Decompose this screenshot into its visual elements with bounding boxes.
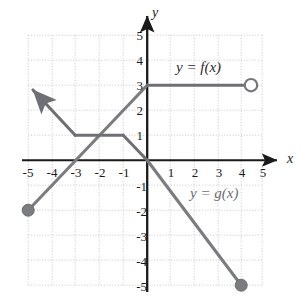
y-tick-3: 3 (137, 79, 144, 92)
x-tick--2: -2 (95, 166, 106, 179)
x-tick--1: -1 (119, 166, 130, 179)
x-tick--4: -4 (47, 166, 58, 179)
graph-figure: x y -5 -4 -3 -2 -1 1 2 3 4 5 5 4 3 2 1 -… (0, 0, 305, 297)
y-tick--1: -1 (136, 180, 147, 193)
y-tick--3: -3 (136, 230, 147, 243)
y-tick--4: -4 (136, 255, 147, 268)
y-tick-1: 1 (137, 129, 144, 142)
open-circle-marker (245, 79, 257, 91)
x-tick--5: -5 (23, 166, 34, 179)
filled-dot-marker-left (22, 204, 34, 216)
y-tick--2: -2 (136, 205, 147, 218)
filled-dot-marker-right (235, 279, 247, 291)
x-tick-3: 3 (216, 166, 223, 179)
x-tick-1: 1 (168, 166, 175, 179)
x-tick--3: -3 (71, 166, 82, 179)
x-tick-5: 5 (260, 166, 267, 179)
f-function-label: y = f(x) (176, 60, 221, 75)
x-tick-2: 2 (192, 166, 199, 179)
curve-f (33, 85, 245, 160)
x-axis-name: x (287, 152, 293, 166)
graph-canvas (0, 0, 305, 297)
y-axis-name: y (152, 6, 158, 20)
g-function-label: y = g(x) (190, 186, 238, 201)
y-tick-2: 2 (137, 104, 144, 117)
x-tick-4: 4 (239, 166, 246, 179)
y-tick-5: 5 (137, 29, 144, 42)
y-tick--5: -5 (136, 280, 147, 293)
y-tick-4: 4 (137, 54, 144, 67)
